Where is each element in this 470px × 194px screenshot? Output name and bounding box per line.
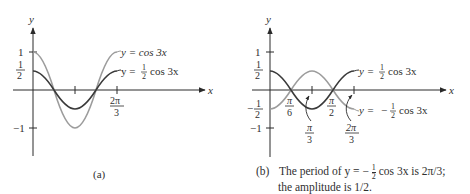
legend-pos-post: cos 3x xyxy=(388,65,417,77)
ytick-label-neg1: −1 xyxy=(13,122,25,134)
legend-pos-den: 2 xyxy=(380,72,384,81)
panel-b: y x 1 1 2 − 1 2 −1 π 6 π 2 π 3 2π 3 y = … xyxy=(247,13,454,157)
ytick-label-nhalf-num: 1 xyxy=(256,98,261,109)
caption-b-tag: (b) xyxy=(256,165,269,177)
legend-neg-num: 1 xyxy=(391,102,395,111)
xtick-2pi3-den: 3 xyxy=(349,134,354,145)
x-axis-label: x xyxy=(448,84,454,96)
caption-b-den: 2 xyxy=(372,173,376,181)
xtick-2pi3-num: 2π xyxy=(346,122,357,133)
y-axis-label: y xyxy=(265,13,271,25)
legend-half-cos3x-post: cos 3x xyxy=(150,65,179,77)
legend-pos-pre: y = xyxy=(358,65,374,77)
caption-b-line2-text: the amplitude is 1/2. xyxy=(278,181,372,193)
caption-b-line1a: The period of y = xyxy=(279,165,360,177)
ytick-label-nhalf-sign: − xyxy=(247,102,253,114)
caption-b: (b) The period of y = − 1 2 cos 3x is 2π… xyxy=(256,164,446,181)
ytick-label-neg1: −1 xyxy=(250,122,262,134)
caption-a: (a) xyxy=(93,168,106,181)
ytick-label-1: 1 xyxy=(18,46,24,58)
panel-a: y x 1 1 2 −1 2π 3 y = cos 3x y = 1 2 cos… xyxy=(13,13,213,181)
caption-b-line1b: cos 3x is 2π/3; xyxy=(379,165,446,177)
ytick-label-half-num: 1 xyxy=(256,59,261,70)
x-axis-label: x xyxy=(207,84,213,96)
xtick-label-2pi3-den: 3 xyxy=(114,107,119,118)
xtick-pi3-num: π xyxy=(307,122,313,133)
xtick-pi2-num: π xyxy=(329,95,335,106)
legend-pos-num: 1 xyxy=(380,63,384,72)
y-axis-label: y xyxy=(28,13,34,25)
caption-b-line2: the amplitude is 1/2. xyxy=(278,181,372,193)
legend-cos3x: y = cos 3x xyxy=(120,46,167,58)
legend-neg-post: cos 3x xyxy=(399,104,428,116)
legend-half-num: 1 xyxy=(142,63,146,72)
xtick-pi6-den: 6 xyxy=(287,107,292,118)
legend-neg-pre: y = xyxy=(358,104,374,116)
ytick-label-half-num: 1 xyxy=(18,59,23,70)
legend-half-den: 2 xyxy=(142,72,146,81)
legend-neg-den: 2 xyxy=(391,111,395,120)
xtick-pi2-den: 2 xyxy=(329,107,334,118)
caption-b-sign: − xyxy=(362,165,369,177)
ytick-label-half-den: 2 xyxy=(17,70,22,81)
legend-half-cos3x-pre: y = xyxy=(121,65,135,77)
xtick-label-2pi3-num: 2π xyxy=(110,95,120,106)
ytick-label-1: 1 xyxy=(255,46,261,58)
xtick-pi6-num: π xyxy=(287,95,293,106)
xtick-pi3-den: 3 xyxy=(307,134,312,145)
ytick-label-half-den: 2 xyxy=(255,70,260,81)
legend-neg-sign: − xyxy=(381,104,387,116)
ytick-label-nhalf-den: 2 xyxy=(255,109,260,120)
